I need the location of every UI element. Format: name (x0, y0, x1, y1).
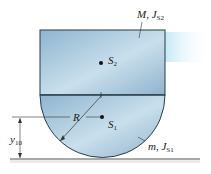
label-radius: R (73, 112, 80, 123)
center-s1 (100, 115, 104, 119)
center-s2 (99, 61, 103, 65)
label-s1: S1 (108, 119, 117, 132)
light-glow (165, 32, 211, 62)
label-upper-body: M, JS2 (137, 9, 164, 22)
label-lower-body: m, JS1 (148, 141, 174, 154)
diagram-canvas (0, 0, 211, 174)
label-y10: y10 (10, 134, 22, 147)
lower-body (40, 95, 165, 158)
label-s2: S2 (108, 55, 117, 68)
